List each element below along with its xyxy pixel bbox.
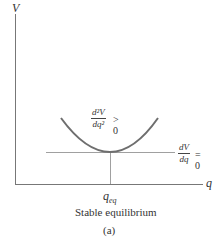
potential-curve	[61, 118, 158, 152]
first-derivative-relation: = 0	[195, 149, 201, 171]
fraction-numerator: d²V	[91, 108, 106, 119]
second-derivative-fraction: d²V dq²	[91, 108, 106, 129]
y-axis-label: V	[12, 2, 19, 14]
fraction-denominator: dq	[180, 154, 189, 164]
equilibrium-label-sub: eq	[109, 196, 117, 205]
fraction-numerator: dV	[178, 143, 190, 154]
caption-sublabel: (a)	[103, 224, 115, 236]
second-derivative-relation: > 0	[113, 114, 119, 136]
caption-title: Stable equilibrium	[75, 206, 157, 218]
equilibrium-label: qeq	[103, 190, 117, 205]
x-axis-label: q	[206, 177, 212, 189]
first-derivative-fraction: dV dq	[178, 143, 190, 164]
fraction-denominator: dq²	[93, 119, 105, 129]
